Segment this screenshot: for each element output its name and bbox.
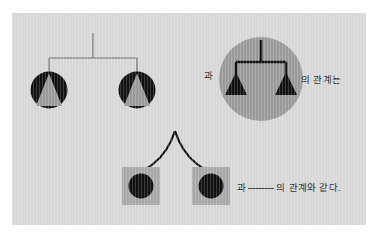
- node-square-circle-right: [192, 167, 230, 205]
- caption-bottom-prefix: 과: [237, 182, 246, 193]
- top-left-connector: [49, 33, 137, 74]
- node-circle-triangle-right: [119, 72, 156, 109]
- top-right-group: [219, 37, 303, 121]
- top-left-group: [31, 33, 156, 109]
- node-square-circle-left: [122, 167, 160, 205]
- caption-relation-is: 의 관계는: [301, 75, 341, 85]
- caption-bottom-suffix: 의 관계와 같다.: [276, 182, 341, 193]
- answer-blank[interactable]: [248, 188, 274, 189]
- diagram-canvas: [12, 13, 366, 225]
- caption-bottom-sentence: 과의 관계와 같다.: [237, 183, 341, 193]
- bottom-connector-arch: [140, 131, 210, 171]
- figure-panel: 과 의 관계는 과의 관계와 같다.: [12, 13, 366, 225]
- bottom-group: [122, 131, 230, 205]
- caption-conjunction-top: 과: [204, 71, 213, 81]
- node-circle-triangle-left: [31, 72, 68, 109]
